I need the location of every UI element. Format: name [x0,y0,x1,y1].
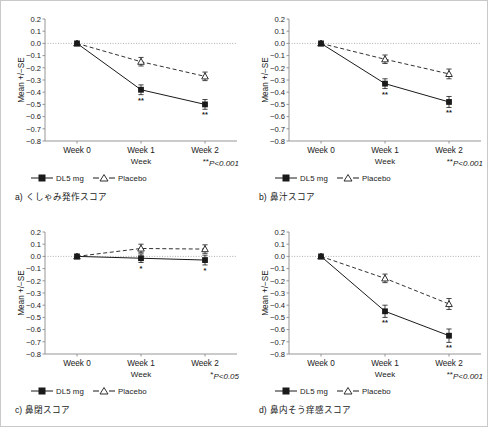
legend-label-placebo: Placebo [117,174,147,183]
legend-b: DL5 mg Placebo [275,171,475,185]
svg-text:0.1: 0.1 [30,27,41,36]
panel-b: 0.20.10.0−0.1−0.2−0.3−0.4−0.5−0.6−0.7−0.… [245,1,488,214]
panel-caption-index-b: b) [259,192,267,202]
legend-label-dl5: DL5 mg [299,387,328,396]
svg-text:0.0: 0.0 [30,252,41,261]
legend-entry-dl5: DL5 mg [31,173,84,183]
svg-text:Week 0: Week 0 [63,146,91,155]
svg-text:0.1: 0.1 [274,240,285,249]
legend-entry-placebo: Placebo [337,173,391,183]
svg-text:0.1: 0.1 [30,240,41,249]
svg-text:**: ** [382,90,388,99]
open-triangle-marker-icon [337,173,359,183]
svg-text:−0.3: −0.3 [26,289,41,298]
legend-label-dl5: DL5 mg [55,174,84,183]
svg-text:Week 1: Week 1 [371,146,399,155]
svg-text:**: ** [202,110,208,119]
legend-entry-dl5: DL5 mg [275,173,328,183]
svg-text:−0.5: −0.5 [26,313,41,322]
svg-text:−0.5: −0.5 [26,100,41,109]
svg-text:−0.8: −0.8 [26,350,41,359]
svg-text:0.2: 0.2 [274,15,285,24]
svg-text:0.2: 0.2 [274,228,285,237]
svg-text:−0.1: −0.1 [26,51,41,60]
panel-caption-a: a)くしゃみ発作スコア [15,190,107,202]
chart-svg-c: 0.20.10.0−0.1−0.2−0.3−0.4−0.5−0.6−0.7−0.… [15,226,241,386]
svg-text:Week 1: Week 1 [127,359,155,368]
legend-label-dl5: DL5 mg [55,387,84,396]
svg-text:−0.3: −0.3 [270,289,285,298]
svg-text:−0.7: −0.7 [26,338,41,347]
pvalue-note-a: **P<0.001 [203,157,239,168]
svg-text:−0.5: −0.5 [270,100,285,109]
svg-text:0.0: 0.0 [274,252,285,261]
chart-area-a: 0.20.10.0−0.1−0.2−0.3−0.4−0.5−0.6−0.7−0.… [15,13,241,173]
panel-caption-text-d: 鼻内そう痒感スコア [270,405,351,415]
chart-svg-b: 0.20.10.0−0.1−0.2−0.3−0.4−0.5−0.6−0.7−0.… [259,13,485,173]
chart-area-c: 0.20.10.0−0.1−0.2−0.3−0.4−0.5−0.6−0.7−0.… [15,226,241,386]
svg-text:−0.6: −0.6 [270,325,285,334]
svg-text:−0.1: −0.1 [270,51,285,60]
open-triangle-marker-icon [93,386,115,396]
svg-text:−0.7: −0.7 [270,338,285,347]
svg-text:**: ** [382,318,388,327]
svg-text:Mean +/−SE: Mean +/−SE [261,270,270,316]
legend-entry-placebo: Placebo [93,386,147,396]
svg-text:−0.1: −0.1 [270,264,285,273]
legend-d: DL5 mg Placebo [275,384,475,398]
pvalue-note-b: **P<0.001 [447,157,483,168]
filled-square-marker-icon [31,173,53,183]
panel-c: 0.20.10.0−0.1−0.2−0.3−0.4−0.5−0.6−0.7−0.… [1,214,245,427]
svg-text:Week 2: Week 2 [191,146,219,155]
svg-text:−0.3: −0.3 [26,76,41,85]
svg-text:−0.4: −0.4 [26,88,41,97]
legend-entry-dl5: DL5 mg [275,386,328,396]
panel-caption-c: c)鼻閉スコア [15,403,70,415]
svg-text:Week: Week [375,370,396,379]
panel-caption-text-b: 鼻汁スコア [270,192,315,202]
panel-caption-index-a: a) [15,192,23,202]
panel-caption-b: b)鼻汁スコア [259,190,315,202]
svg-text:Mean +/−SE: Mean +/−SE [17,57,26,103]
svg-text:−0.2: −0.2 [26,64,41,73]
svg-text:−0.8: −0.8 [26,137,41,146]
pvalue-note-d: **P<0.001 [447,370,483,381]
chart-svg-d: 0.20.10.0−0.1−0.2−0.3−0.4−0.5−0.6−0.7−0.… [259,226,485,386]
legend-entry-placebo: Placebo [337,386,391,396]
filled-square-marker-icon [275,173,297,183]
svg-text:Week 2: Week 2 [435,359,463,368]
svg-text:0.2: 0.2 [30,228,41,237]
filled-square-marker-icon [31,386,53,396]
legend-entry-placebo: Placebo [93,173,147,183]
pvalue-text-b: P<0.001 [453,159,483,168]
legend-entry-dl5: DL5 mg [31,386,84,396]
panel-caption-text-c: 鼻閉スコア [25,405,70,415]
svg-text:−0.7: −0.7 [270,125,285,134]
svg-text:−0.6: −0.6 [26,325,41,334]
svg-text:−0.8: −0.8 [270,350,285,359]
svg-text:Week 0: Week 0 [307,359,335,368]
legend-c: DL5 mg Placebo [31,384,231,398]
svg-text:−0.6: −0.6 [26,112,41,121]
panel-caption-index-c: c) [15,405,22,415]
svg-text:−0.8: −0.8 [270,137,285,146]
chart-area-b: 0.20.10.0−0.1−0.2−0.3−0.4−0.5−0.6−0.7−0.… [259,13,485,173]
svg-text:−0.2: −0.2 [270,64,285,73]
svg-text:−0.6: −0.6 [270,112,285,121]
svg-text:−0.4: −0.4 [26,301,41,310]
panel-caption-d: d)鼻内そう痒感スコア [259,403,351,415]
open-triangle-marker-icon [337,386,359,396]
svg-text:−0.4: −0.4 [270,301,285,310]
svg-text:**: ** [138,96,144,105]
svg-text:**: ** [446,343,452,352]
svg-text:−0.2: −0.2 [270,277,285,286]
svg-text:−0.2: −0.2 [26,277,41,286]
legend-label-placebo: Placebo [361,387,391,396]
legend-a: DL5 mg Placebo [31,171,231,185]
filled-square-marker-icon [275,386,297,396]
svg-text:Mean +/−SE: Mean +/−SE [17,270,26,316]
legend-label-placebo: Placebo [117,387,147,396]
svg-text:Mean +/−SE: Mean +/−SE [261,57,270,103]
panel-caption-text-a: くしゃみ発作スコア [26,192,107,202]
open-triangle-marker-icon [93,173,115,183]
